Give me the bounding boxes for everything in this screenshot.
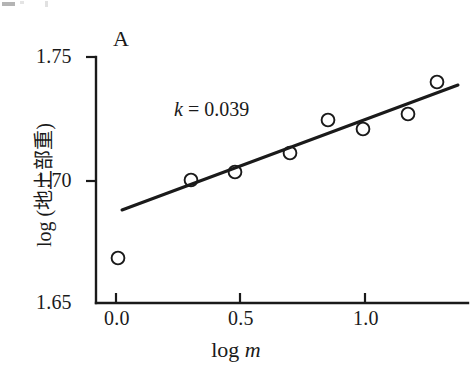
x-axis-title-symbol: m <box>245 337 261 362</box>
x-axis-tick-label-2: 1.0 <box>353 308 379 328</box>
axes <box>86 57 468 303</box>
y-axis-tick-label-bottom: 1.65 <box>36 292 72 312</box>
slope-annotation-value: = 0.039 <box>183 98 249 120</box>
slope-annotation-symbol: k <box>174 98 183 120</box>
data-point <box>112 252 125 265</box>
data-point <box>357 123 370 136</box>
x-axis-title-prefix: log <box>211 337 245 362</box>
data-point <box>322 114 335 127</box>
data-point <box>431 76 444 89</box>
data-points <box>112 76 444 265</box>
x-axis-tick-label-0: 0.0 <box>104 308 130 328</box>
x-axis-title: log m <box>0 339 472 361</box>
y-axis-title: log (地上部重) <box>34 75 54 295</box>
data-point <box>402 108 415 121</box>
panel-label: A <box>113 28 129 50</box>
x-axis-tick-label-1: 0.5 <box>228 308 254 328</box>
slope-annotation: k = 0.039 <box>174 99 249 119</box>
chart-figure: 1.75 1.70 1.65 0.0 0.5 1.0 A k = 0.039 l… <box>0 0 472 374</box>
y-axis-tick-label-top: 1.75 <box>36 46 72 66</box>
